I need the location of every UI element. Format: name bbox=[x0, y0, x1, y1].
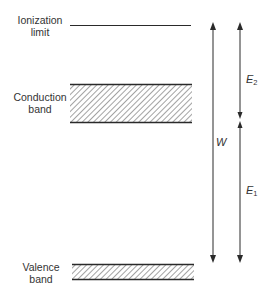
conduction-band bbox=[70, 84, 192, 123]
arrowhead-down-icon bbox=[237, 255, 243, 263]
arrowhead-down-icon bbox=[238, 112, 243, 119]
ionization-limit-label: Ionization limit bbox=[14, 14, 66, 38]
e2-symbol: E2 bbox=[246, 73, 258, 89]
arrowhead-up-icon bbox=[237, 22, 243, 30]
e1-arrow bbox=[237, 121, 243, 263]
conduction-band-label: Conduction band bbox=[10, 91, 70, 115]
arrowhead-down-icon bbox=[210, 255, 216, 263]
energy-band-diagram: Ionization limit Conduction band Valence… bbox=[0, 0, 271, 300]
valence-band bbox=[72, 264, 194, 280]
w-symbol: W bbox=[216, 136, 226, 148]
arrowhead-up-icon bbox=[210, 22, 216, 30]
valence-band-label: Valence band bbox=[16, 261, 66, 285]
arrowhead-up-icon bbox=[238, 121, 243, 128]
diagram-graphics bbox=[0, 0, 271, 300]
e1-symbol: E1 bbox=[246, 184, 258, 200]
e2-arrow bbox=[237, 22, 243, 119]
